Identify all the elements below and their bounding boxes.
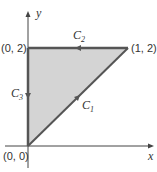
c3-subscript: 3 (18, 93, 23, 102)
c1-subscript: 1 (90, 105, 94, 114)
x-axis-label: x (147, 149, 154, 163)
x-axis-arrow-icon (148, 144, 154, 149)
vertex-label-top-left: (0, 2) (1, 42, 27, 54)
y-axis-arrow-icon (26, 11, 31, 17)
diagram-canvas: y x (0, 2) (1, 2) (0, 0) C 2 C 3 C 1 (0, 0, 157, 172)
c2-subscript: 2 (81, 35, 85, 44)
label-c3: C 3 (11, 86, 23, 102)
vertex-label-top-right: (1, 2) (131, 42, 157, 54)
label-c2: C 2 (73, 28, 85, 44)
label-c1: C 1 (82, 98, 94, 114)
vertex-label-origin: (0, 0) (3, 150, 29, 162)
y-axis-label: y (35, 6, 42, 20)
